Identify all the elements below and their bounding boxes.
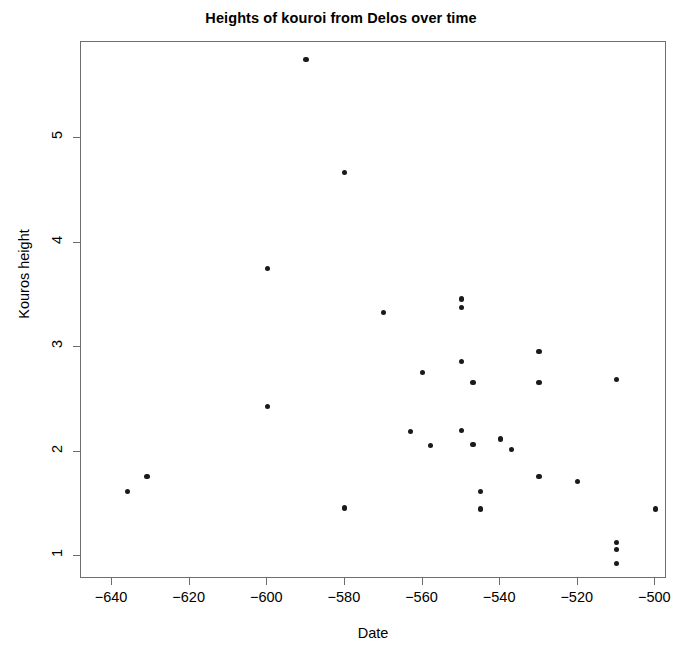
x-axis-tick xyxy=(111,578,112,585)
x-axis-label: Date xyxy=(80,625,666,641)
x-axis-tick xyxy=(344,578,345,585)
data-point xyxy=(614,561,619,566)
data-point xyxy=(420,370,425,375)
y-axis-tick xyxy=(73,555,80,556)
y-axis-tick-label: 4 xyxy=(46,232,68,248)
data-point xyxy=(144,474,149,479)
data-point xyxy=(342,170,347,175)
data-point xyxy=(509,447,514,452)
x-axis-tick-label: −560 xyxy=(392,589,452,605)
y-axis-tick xyxy=(73,451,80,452)
y-axis-tick-label: 3 xyxy=(46,336,68,352)
y-axis-tick-label: 2 xyxy=(46,441,68,457)
x-axis-tick xyxy=(266,578,267,585)
y-axis-label: Kouros height xyxy=(16,229,32,318)
data-point xyxy=(342,505,347,510)
data-point xyxy=(536,349,541,354)
data-point xyxy=(303,57,308,62)
x-axis-tick xyxy=(499,578,500,585)
data-point xyxy=(265,404,270,409)
data-point xyxy=(470,380,475,385)
data-point xyxy=(125,489,130,494)
data-point xyxy=(265,266,270,271)
data-point xyxy=(470,442,475,447)
x-axis-tick-label: −580 xyxy=(314,589,374,605)
x-axis-tick xyxy=(654,578,655,585)
data-point xyxy=(459,428,464,433)
data-point xyxy=(614,547,619,552)
y-axis-tick-label: 1 xyxy=(46,545,68,561)
x-axis-tick-label: −540 xyxy=(469,589,529,605)
x-axis-tick-label: −520 xyxy=(547,589,607,605)
page-title: Heights of kouroi from Delos over time xyxy=(0,10,682,26)
x-axis-tick xyxy=(422,578,423,585)
y-axis-label-wrap: Kouros height xyxy=(15,144,33,404)
plot-panel xyxy=(80,41,666,578)
data-point xyxy=(428,443,433,448)
data-point xyxy=(575,479,580,484)
x-axis-tick-label: −640 xyxy=(81,589,141,605)
y-axis-tick xyxy=(73,242,80,243)
x-axis-tick-label: −600 xyxy=(236,589,296,605)
data-point xyxy=(614,540,619,545)
data-point xyxy=(408,429,413,434)
y-axis-tick-label: 5 xyxy=(46,127,68,143)
x-axis-tick xyxy=(577,578,578,585)
data-point xyxy=(459,359,464,364)
data-point xyxy=(459,305,464,310)
data-point xyxy=(498,436,503,441)
x-axis-tick-label: −500 xyxy=(624,589,682,605)
data-point xyxy=(459,296,464,301)
data-point xyxy=(536,380,541,385)
data-point xyxy=(381,310,386,315)
data-point xyxy=(653,506,658,511)
scatter-plot-figure: Heights of kouroi from Delos over time D… xyxy=(0,0,682,672)
data-point xyxy=(478,489,483,494)
y-axis-tick xyxy=(73,137,80,138)
x-axis-tick-label: −620 xyxy=(159,589,219,605)
data-point xyxy=(614,377,619,382)
data-point xyxy=(478,506,483,511)
y-axis-tick xyxy=(73,346,80,347)
data-points-layer xyxy=(81,42,665,577)
data-point xyxy=(536,474,541,479)
x-axis-tick xyxy=(189,578,190,585)
